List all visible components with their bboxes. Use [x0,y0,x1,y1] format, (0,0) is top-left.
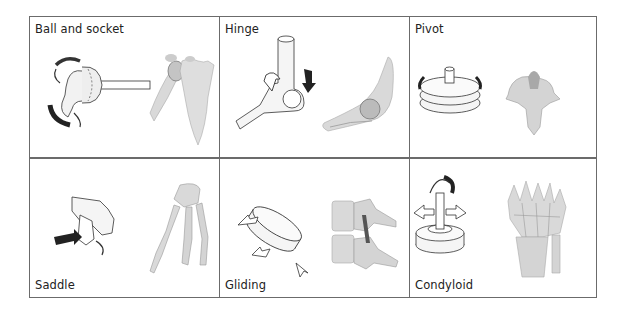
vertebral-facet-joints-icon [220,159,409,297]
atlas-vertebra-icon [410,17,598,157]
wrist-joint-icon [410,159,598,297]
cell-gliding: Gliding [220,159,409,297]
elbow-joint-icon [220,17,409,157]
cell-pivot: Pivot [410,17,598,157]
cell-ball-and-socket: Ball and socket [30,17,219,157]
cell-saddle: Saddle [30,159,219,297]
thumb-carpometacarpal-icon [30,159,219,297]
shoulder-joint-icon [30,17,219,157]
cell-condyloid: Condyloid [410,159,598,297]
cell-hinge: Hinge [220,17,409,157]
joint-types-figure: Ball and socket Hinge [29,16,597,298]
